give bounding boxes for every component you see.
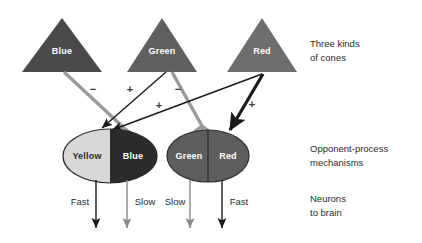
side-note-neurons-line2: to brain (310, 207, 342, 218)
connection-red-to-yellowblue (112, 74, 262, 130)
sign-red-excitatory-greenred: + (249, 98, 255, 110)
neuron-output-fast-red: Fast (222, 180, 249, 228)
side-note-opponent-line2: mechanisms (310, 157, 364, 168)
side-note-cones-line2: of cones (310, 52, 346, 63)
side-note-cones: Three kinds of cones (310, 38, 360, 63)
neuron-speed-label-fast-yellow: Fast (71, 196, 90, 207)
side-note-opponent: Opponent-process mechanisms (310, 143, 388, 168)
cone-red[interactable]: Red (227, 18, 297, 72)
side-note-neurons: Neurons to brain (310, 193, 346, 218)
connection-green-to-greenred (172, 72, 209, 133)
sign-green-excitatory: + (127, 83, 133, 95)
opponent-mechanism-group: Yellow Blue Green Red (63, 129, 249, 183)
opponent-label-yellow: Yellow (72, 151, 102, 161)
cone-red-label: Red (253, 46, 271, 56)
side-note-opponent-line1: Opponent-process (310, 143, 388, 154)
cone-group: Blue Green Red (22, 18, 297, 72)
sign-red-excitatory-yellowblue: + (156, 99, 162, 111)
opponent-process-diagram: Blue Green Red (0, 0, 422, 243)
connection-group: − + − + + (64, 72, 263, 135)
cone-blue-label: Blue (52, 46, 72, 56)
neuron-speed-label-slow-green: Slow (165, 196, 186, 207)
neuron-output-fast-yellow: Fast (71, 180, 96, 228)
side-note-cones-line1: Three kinds (310, 38, 360, 49)
neuron-speed-label-fast-red: Fast (230, 196, 249, 207)
sign-blue-inhibitory: − (90, 83, 96, 95)
cone-green-label: Green (148, 46, 175, 56)
figure-canvas: Blue Green Red (0, 0, 422, 243)
sign-green-inhibitory: − (175, 83, 181, 95)
opponent-label-blue: Blue (123, 151, 143, 161)
side-annotation-group: Three kinds of cones Opponent-process me… (310, 38, 388, 218)
connection-red-to-greenred (230, 74, 263, 130)
opponent-ellipse-green-red[interactable]: Green Red (167, 130, 249, 182)
neuron-speed-label-slow-blue: Slow (135, 196, 156, 207)
opponent-label-red: Red (219, 151, 237, 161)
neuron-output-slow-blue: Slow (127, 180, 155, 228)
opponent-label-green: Green (175, 151, 202, 161)
neuron-output-group: Fast Slow Slow Fast (71, 180, 249, 228)
opponent-ellipse-yellow-blue[interactable]: Yellow Blue (63, 129, 157, 183)
cone-blue[interactable]: Blue (22, 18, 102, 72)
neuron-output-slow-green: Slow (165, 180, 190, 228)
connection-blue-to-yellowblue (64, 72, 131, 135)
cone-green[interactable]: Green (127, 18, 197, 72)
side-note-neurons-line1: Neurons (310, 193, 346, 204)
